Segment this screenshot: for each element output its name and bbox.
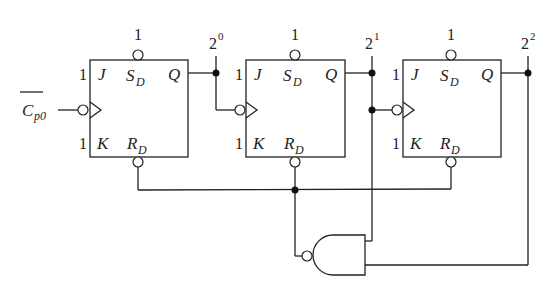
ff1-sd-value: 1 <box>291 26 299 43</box>
ff0-k-pin: K <box>96 134 110 153</box>
ff1-rd-pin-sub: D <box>294 143 304 157</box>
nand-gate-body-icon <box>313 235 365 275</box>
ff1-sd-inversion-bubble <box>290 50 300 60</box>
flip-flop-1: 1 S D 1 J Q 1 K R D <box>235 26 345 167</box>
flip-flop-2: 1 S D 1 J Q 1 K R D <box>392 26 501 167</box>
ff1-rd-inversion-bubble <box>290 157 300 167</box>
ff0-sd-inversion-bubble <box>133 50 143 60</box>
clock-label-subscript: p0 <box>33 109 46 123</box>
ff2-sd-pin-sub: D <box>449 75 459 89</box>
ff1-clock-inversion-bubble <box>235 105 245 115</box>
q0-junction-dot <box>213 70 220 77</box>
reset-bus <box>138 167 451 256</box>
q1-weight-base: 2 <box>365 35 373 52</box>
q0-weight-exponent: 0 <box>218 30 224 42</box>
ff0-rd-pin: R <box>126 134 138 153</box>
q2-output-wiring: 2 2 <box>501 30 536 265</box>
ff2-rd-pin-sub: D <box>450 143 460 157</box>
q1-output-wiring: 2 1 <box>345 30 392 241</box>
ff2-k-pin: K <box>409 134 423 153</box>
ff0-rd-pin-sub: D <box>137 143 147 157</box>
nand-output-inversion-bubble <box>302 251 312 261</box>
ff2-j-value: 1 <box>392 66 400 83</box>
clock-label: C <box>22 101 34 120</box>
counter-circuit-diagram: C p0 1 S D 1 J Q 1 K R D 1 S D 1 J Q <box>0 0 560 288</box>
ff1-k-value: 1 <box>235 135 243 152</box>
ff0-q-pin: Q <box>168 65 180 84</box>
reset-bus-junction-dot <box>292 187 299 194</box>
ff2-q-pin: Q <box>481 65 493 84</box>
ff0-sd-pin: S <box>126 66 135 85</box>
ff1-j-value: 1 <box>235 66 243 83</box>
ff2-rd-pin: R <box>439 134 451 153</box>
q2-junction-dot <box>525 70 532 77</box>
q2-weight-exponent: 2 <box>530 30 536 42</box>
ff2-clock-inversion-bubble <box>392 105 402 115</box>
nand-gate <box>295 235 528 275</box>
q2-weight-base: 2 <box>521 35 529 52</box>
q0-output-wiring: 2 0 <box>188 30 235 110</box>
ff0-sd-value: 1 <box>134 26 142 43</box>
q1-clock-junction-dot <box>369 107 376 114</box>
ff1-k-pin: K <box>252 134 266 153</box>
ff2-sd-inversion-bubble <box>446 50 456 60</box>
ff1-q-pin: Q <box>325 65 337 84</box>
ff1-sd-pin: S <box>283 66 292 85</box>
q1-junction-dot <box>369 70 376 77</box>
ff1-rd-pin: R <box>283 134 295 153</box>
ff0-rd-inversion-bubble <box>133 157 143 167</box>
ff1-sd-pin-sub: D <box>292 75 302 89</box>
ff0-clock-inversion-bubble <box>78 105 88 115</box>
flip-flop-0: 1 S D 1 J Q 1 K R D <box>78 26 188 167</box>
ff2-rd-inversion-bubble <box>446 157 456 167</box>
ff2-sd-pin: S <box>440 66 449 85</box>
ff2-sd-value: 1 <box>447 26 455 43</box>
ff0-sd-pin-sub: D <box>135 75 145 89</box>
q1-weight-exponent: 1 <box>374 30 380 42</box>
ff0-k-value: 1 <box>79 135 87 152</box>
clock-input: C p0 <box>20 92 78 123</box>
ff2-k-value: 1 <box>392 135 400 152</box>
ff0-j-value: 1 <box>79 66 87 83</box>
q0-weight-base: 2 <box>209 35 217 52</box>
